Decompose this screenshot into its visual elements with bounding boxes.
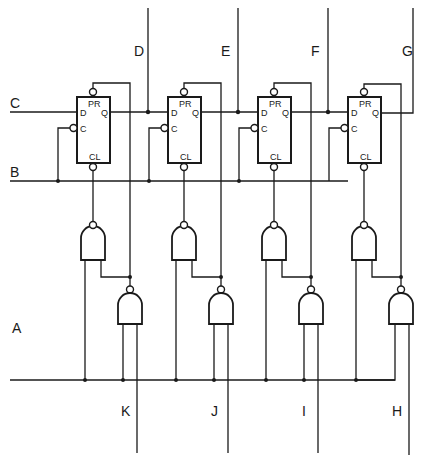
junction-dot xyxy=(146,110,150,114)
junction-dot xyxy=(302,378,306,382)
nand-gate-lower-1 xyxy=(118,293,142,324)
pin-d: D xyxy=(80,108,87,118)
nand-gate-lower-2 xyxy=(209,293,233,324)
pin-pr: PR xyxy=(179,99,192,109)
label-h: H xyxy=(392,403,402,419)
wire-g2-out xyxy=(192,260,221,277)
nand-bubble-icon xyxy=(90,222,97,229)
label-g: G xyxy=(402,43,413,59)
nand-gate-lower-3 xyxy=(299,293,323,324)
pin-pr: PR xyxy=(359,99,372,109)
nand-gate-upper-2 xyxy=(172,226,196,260)
junction-dot xyxy=(237,179,241,183)
label-j: J xyxy=(211,403,218,419)
pin-pr: PR xyxy=(88,99,101,109)
nand-bubble-icon xyxy=(398,286,405,293)
stage-3: PR D Q C CL xyxy=(237,83,348,453)
pin-q: Q xyxy=(282,108,289,118)
nand-bubble-icon xyxy=(308,286,315,293)
nand-gate-upper-4 xyxy=(352,226,376,260)
pin-q: Q xyxy=(192,108,199,118)
pin-d: D xyxy=(261,108,268,118)
clock-bubble-icon xyxy=(251,125,258,132)
label-k: K xyxy=(121,403,131,419)
circuit-schematic: PR D Q C CL PR D Q C CL xyxy=(0,0,431,468)
cl-bubble-icon xyxy=(361,164,368,171)
junction-dot xyxy=(56,179,60,183)
pin-q: Q xyxy=(372,108,379,118)
junction-dot xyxy=(264,378,268,382)
nand-gate-lower-4 xyxy=(389,293,413,324)
wire-g4-out xyxy=(372,260,401,277)
label-d: D xyxy=(134,43,144,59)
pin-c: C xyxy=(80,124,87,134)
label-c: C xyxy=(10,95,20,111)
label-f: F xyxy=(311,43,320,59)
pin-c: C xyxy=(171,124,178,134)
wire-g1-out xyxy=(101,260,130,277)
stage-1: PR D Q C CL xyxy=(56,83,168,453)
nand-bubble-icon xyxy=(127,286,134,293)
pr-bubble-icon xyxy=(361,89,368,96)
label-i: I xyxy=(302,403,306,419)
junction-dot xyxy=(147,179,151,183)
junction-dot xyxy=(236,110,240,114)
pin-cl: CL xyxy=(270,152,282,162)
nand-gate-upper-1 xyxy=(81,226,105,260)
nand-bubble-icon xyxy=(218,286,225,293)
cl-bubble-icon xyxy=(271,164,278,171)
pr-bubble-icon xyxy=(181,89,188,96)
pin-d: D xyxy=(351,108,358,118)
nand-bubble-icon xyxy=(181,222,188,229)
pin-q: Q xyxy=(101,108,108,118)
wire-clk4 xyxy=(329,128,341,181)
nand-bubble-icon xyxy=(271,222,278,229)
clock-bubble-icon xyxy=(161,125,168,132)
pin-d: D xyxy=(171,108,178,118)
stage-4: PR D Q C CL xyxy=(329,8,413,455)
wire-g3-out xyxy=(282,260,311,277)
clock-bubble-icon xyxy=(70,125,77,132)
junction-dot xyxy=(83,378,87,382)
label-e: E xyxy=(221,43,230,59)
nand-bubble-icon xyxy=(361,222,368,229)
wire-clk3 xyxy=(239,128,251,181)
wire-lg4-a xyxy=(356,324,395,380)
pin-pr: PR xyxy=(269,99,282,109)
wire-clk1 xyxy=(58,128,70,181)
pr-bubble-icon xyxy=(90,89,97,96)
junction-dot xyxy=(121,378,125,382)
stage-2: PR D Q C CL xyxy=(147,83,259,453)
pin-cl: CL xyxy=(360,152,372,162)
pin-c: C xyxy=(261,124,268,134)
wire-q4-g xyxy=(381,8,413,113)
clock-bubble-icon xyxy=(341,125,348,132)
cl-bubble-icon xyxy=(181,164,188,171)
junction-dot xyxy=(212,378,216,382)
cl-bubble-icon xyxy=(90,164,97,171)
wire-clk2 xyxy=(149,128,161,181)
pin-cl: CL xyxy=(180,152,192,162)
pin-c: C xyxy=(351,124,358,134)
pin-cl: CL xyxy=(89,152,101,162)
pr-bubble-icon xyxy=(271,89,278,96)
nand-gate-upper-3 xyxy=(262,226,286,260)
junction-dot xyxy=(326,110,330,114)
label-b: B xyxy=(10,164,19,180)
label-a: A xyxy=(12,320,22,336)
junction-dot xyxy=(174,378,178,382)
